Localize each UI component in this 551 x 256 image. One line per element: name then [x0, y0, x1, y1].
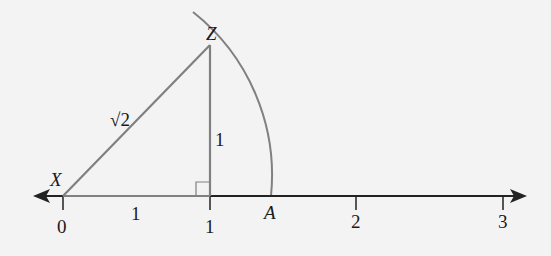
compass-arc — [193, 12, 272, 196]
tick-label-1: 1 — [205, 217, 215, 236]
tick-label-2: 2 — [351, 212, 361, 231]
right-angle-marker — [196, 182, 210, 196]
point-label-x: X — [50, 170, 62, 189]
segment-XZ — [63, 45, 210, 196]
point-label-a: A — [264, 203, 276, 222]
tick-label-0: 0 — [57, 217, 67, 236]
base-label: 1 — [131, 204, 141, 223]
tick-label-3: 3 — [498, 212, 508, 231]
sqrt2-number-line-diagram: X Z A √2 1 1 0 1 2 3 — [0, 0, 551, 256]
height-label: 1 — [215, 130, 225, 149]
point-label-z: Z — [206, 24, 217, 43]
hypotenuse-label: √2 — [110, 110, 130, 129]
